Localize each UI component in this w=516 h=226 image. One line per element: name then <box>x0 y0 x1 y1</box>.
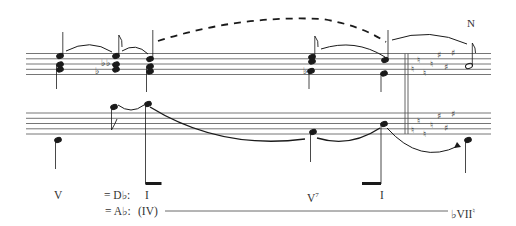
rn-V7: V7 <box>307 189 319 204</box>
bass-staff <box>26 113 491 134</box>
svg-text:♭: ♭ <box>101 58 105 68</box>
neighbor-note-label: N <box>467 17 475 29</box>
arrowhead <box>454 142 461 148</box>
svg-text:♯: ♯ <box>437 111 441 121</box>
svg-text:♮: ♮ <box>423 68 426 78</box>
rn-key-Db: = D♭: <box>104 189 130 201</box>
svg-text:♯: ♯ <box>451 109 455 119</box>
music-score: ♭ ♭ ♭ ♭ <box>0 0 516 226</box>
bass-note-5 <box>380 121 388 184</box>
key-signature-treble: ♮ ♮ ♮ ♮ ♯ ♯ ♯ <box>411 48 455 78</box>
double-barline <box>405 54 408 135</box>
treble-chord-3 <box>146 30 154 92</box>
bass-note-2 <box>110 104 118 130</box>
treble-chord-1 <box>56 32 64 89</box>
svg-text:♮: ♮ <box>411 64 414 74</box>
flat-accidentals: ♭ ♭ ♭ <box>95 58 110 76</box>
bass-bracket-2 <box>362 182 381 185</box>
rn-IV-paren: (IV) <box>138 205 158 217</box>
svg-text:♮: ♮ <box>417 55 420 65</box>
svg-text:♮: ♮ <box>417 116 420 126</box>
svg-text:♯: ♯ <box>451 48 455 58</box>
rn-bVII: ♭VII♮ <box>451 205 475 220</box>
rn-V: V <box>54 189 62 201</box>
treble-chord-2 <box>112 35 122 73</box>
svg-text:♮: ♮ <box>423 129 426 139</box>
treble-chord-5 <box>380 30 389 92</box>
svg-text:♮: ♮ <box>430 59 433 69</box>
rn-bVII-sup: ♮ <box>472 207 475 215</box>
treble-chord-4 <box>307 36 318 89</box>
key-signature-bass: ♮ ♮ ♮ ♮ ♯ ♯ ♯ <box>411 109 455 139</box>
svg-text:♯: ♯ <box>437 50 441 60</box>
dashed-slur <box>158 18 386 42</box>
svg-text:♭: ♭ <box>95 66 99 76</box>
rn-bVII-label: ♭VII <box>451 208 472 220</box>
rn-key-Ab: = A♭: <box>105 205 131 217</box>
flat-accidental: ♭ <box>303 66 307 76</box>
svg-text:♮: ♮ <box>411 125 414 135</box>
rn-V7-sup: 7 <box>315 191 319 199</box>
rn-I-1: I <box>145 189 149 201</box>
bass-note-1 <box>54 137 62 169</box>
svg-text:♯: ♯ <box>444 62 448 72</box>
treble-neighbor-note <box>465 43 476 69</box>
bass-note-4 <box>309 129 317 162</box>
svg-text:♭: ♭ <box>106 58 110 68</box>
bass-note-6 <box>464 137 472 173</box>
rn-I-2: I <box>380 189 384 201</box>
svg-text:♮: ♮ <box>430 120 433 130</box>
bass-bracket-1 <box>146 182 162 185</box>
svg-text:♯: ♯ <box>444 123 448 133</box>
